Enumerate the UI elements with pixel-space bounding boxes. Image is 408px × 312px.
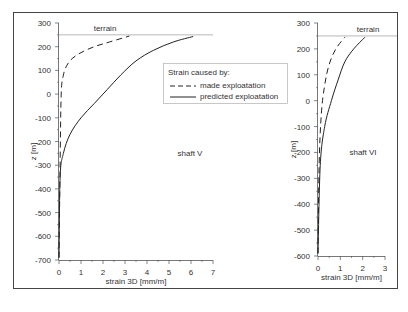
y-tick-label: -500 — [35, 209, 52, 218]
y-tick-label: -600 — [35, 232, 52, 241]
y-tick-label: -400 — [294, 200, 311, 209]
terrain-label: terrain — [357, 25, 380, 34]
x-axis-label: strain 3D [mm/m] — [321, 273, 382, 282]
y-tick-label: 300 — [297, 19, 311, 28]
x-tick-label: 7 — [211, 268, 216, 277]
x-tick-label: 1 — [79, 268, 84, 277]
y-tick-label: -700 — [35, 256, 52, 265]
x-axis-label: strain 3D [mm/m] — [106, 277, 167, 286]
legend-entry-made: made exploatation — [200, 81, 265, 90]
shaft-label: shaft V — [178, 149, 204, 158]
x-tick-label: 1 — [338, 264, 343, 273]
x-tick-label: 2 — [360, 264, 365, 273]
y-tick-label: 300 — [38, 19, 52, 28]
y-tick-label: 0 — [47, 90, 52, 99]
legend-entry-predicted: predicted exploatation — [200, 92, 278, 101]
y-tick-label: 200 — [297, 45, 311, 54]
x-tick-label: 6 — [189, 268, 194, 277]
legend-title: Strain caused by: — [168, 68, 230, 77]
x-tick-label: 3 — [383, 264, 388, 273]
x-tick-label: 0 — [57, 268, 62, 277]
y-tick-label: 100 — [38, 66, 52, 75]
y-tick-label: 0 — [306, 97, 311, 106]
outer-frame — [14, 13, 398, 289]
y-tick-label: -300 — [294, 174, 311, 183]
y-tick-label: 100 — [297, 71, 311, 80]
y-tick-label: -600 — [294, 252, 311, 261]
legend: Strain caused by: made exploatation pred… — [164, 64, 288, 104]
x-tick-label: 0 — [316, 264, 321, 273]
terrain-label: terrain — [94, 24, 117, 33]
y-tick-label: -300 — [35, 161, 52, 170]
y-tick-label: -500 — [294, 226, 311, 235]
strain-chart: 3002001000-100-200-300-400-500-600-70001… — [0, 0, 408, 312]
y-tick-label: -100 — [294, 123, 311, 132]
y-tick-label: 200 — [38, 43, 52, 52]
y-axis-label: z [m] — [289, 141, 298, 158]
x-tick-label: 4 — [145, 268, 150, 277]
x-tick-label: 3 — [123, 268, 128, 277]
y-axis-label: z [m] — [29, 143, 38, 160]
x-tick-label: 2 — [101, 268, 106, 277]
y-tick-label: -400 — [35, 185, 52, 194]
shaft-label: shaft VI — [349, 148, 376, 157]
y-tick-label: -100 — [35, 114, 52, 123]
x-tick-label: 5 — [167, 268, 172, 277]
